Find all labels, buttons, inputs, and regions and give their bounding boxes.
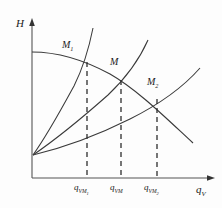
system-curve-flat [33, 68, 200, 155]
tick-label-qvm1-sub-text: VM [79, 188, 87, 194]
x-axis-label: qV [196, 184, 206, 198]
system-curve-medium [33, 40, 148, 155]
point-label-m: M [110, 57, 118, 69]
tick-label-qvm-sub-text: VM [115, 188, 123, 194]
diagram-canvas [0, 0, 222, 208]
tick-label-qvm1-subsub: 1 [87, 191, 89, 196]
tick-label-qvm2-subsub: 2 [157, 191, 159, 196]
x-axis-label-sub: V [202, 190, 206, 197]
tick-label-qvm1-sub: VM1 [79, 188, 89, 194]
point-label-m1: M1 [62, 40, 73, 52]
y-axis-label: H [16, 18, 24, 29]
tick-label-qvm1: qVM1 [74, 183, 89, 196]
point-label-m2-sub: 2 [155, 82, 158, 89]
y-axis-arrow [29, 18, 35, 26]
point-label-m1-sub: 1 [70, 45, 73, 52]
point-label-m-base: M [110, 56, 118, 67]
x-axis-arrow [207, 175, 215, 181]
pump-characteristic-figure: H qV M1 M M2 qVM1 qVM qVM2 [0, 0, 222, 208]
tick-label-qvm2: qVM2 [144, 183, 159, 196]
tick-label-qvm-sub: VM [115, 188, 123, 194]
tick-label-qvm2-sub-text: VM [149, 188, 157, 194]
tick-label-qvm: qVM [110, 183, 123, 196]
point-label-m2: M2 [147, 77, 158, 89]
tick-label-qvm2-sub: VM2 [149, 188, 159, 194]
